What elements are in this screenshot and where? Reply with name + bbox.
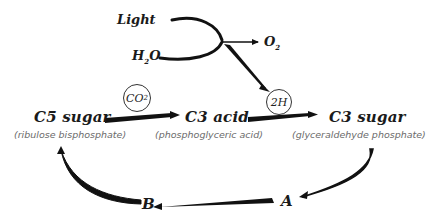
c5-sugar-desc: (ribulose bisphosphate) — [14, 129, 126, 140]
electron-arrow — [224, 44, 266, 89]
calvin-cycle-diagram: Light H2O O2 CO2 2H C5 sugar (ribulose b… — [0, 0, 436, 224]
water-curve — [160, 42, 222, 59]
c3-sugar-desc: (glyceraldehyde phosphate) — [292, 129, 426, 140]
regeneration-arrow-2 — [160, 198, 274, 207]
regeneration-arrow-3 — [61, 150, 141, 204]
node-b-label: B — [142, 195, 155, 213]
light-curve — [172, 18, 222, 40]
c3-acid-desc: (phosphoglyceric acid) — [155, 129, 263, 140]
c3-sugar-label: C3 sugar — [329, 108, 406, 126]
water-label: H2O — [132, 48, 161, 66]
oxygen-label: O2 — [264, 34, 280, 52]
c5-sugar-label: C5 sugar — [34, 108, 111, 126]
co2-circle: CO2 — [123, 84, 151, 112]
regeneration-arrow-1 — [302, 149, 373, 197]
node-a-label: A — [281, 192, 293, 210]
light-label: Light — [117, 12, 156, 27]
hydrogen-circle: 2H — [266, 89, 292, 115]
c3-acid-label: C3 acid — [185, 108, 249, 126]
carboxylation-arrow — [105, 113, 172, 123]
